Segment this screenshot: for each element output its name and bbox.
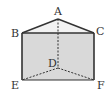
vertex-label-d: D (48, 57, 57, 70)
triangular-prism-diagram: A B C D E F (0, 0, 111, 95)
vertex-label-f: F (97, 79, 105, 92)
vertex-label-c: C (96, 25, 104, 38)
vertex-label-b: B (11, 27, 19, 40)
vertex-label-e: E (11, 79, 19, 92)
vertex-label-a: A (53, 5, 63, 18)
